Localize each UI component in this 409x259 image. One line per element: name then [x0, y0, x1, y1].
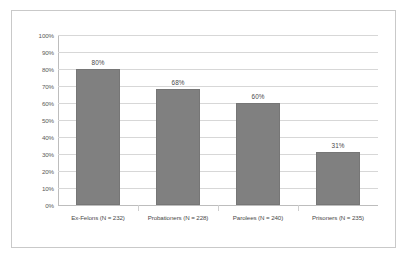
bar-value-label: 80%	[92, 59, 105, 66]
y-tick-label: 90%	[20, 49, 54, 56]
y-tick-label: 80%	[20, 66, 54, 73]
bar-value-label: 31%	[332, 142, 345, 149]
bar-slot: 31%	[298, 35, 378, 205]
category-label: Probationers (N = 228)	[138, 214, 218, 221]
y-tick-label: 70%	[20, 83, 54, 90]
plot-area: 80%68%60%31%	[58, 35, 378, 205]
y-tick-label: 60%	[20, 100, 54, 107]
bar-slot: 80%	[58, 35, 138, 205]
category-divider	[138, 205, 139, 211]
y-tick-label: 100%	[20, 32, 54, 39]
bar-slot: 68%	[138, 35, 218, 205]
category-label: Prisoners (N = 235)	[298, 214, 378, 221]
y-tick-label: 40%	[20, 134, 54, 141]
y-tick-label: 50%	[20, 117, 54, 124]
y-tick-label: 10%	[20, 185, 54, 192]
bar[interactable]	[156, 89, 200, 205]
category-label: Ex-Felons (N = 232)	[58, 214, 138, 221]
y-tick-label: 30%	[20, 151, 54, 158]
category-divider	[298, 205, 299, 211]
bar-value-label: 60%	[252, 93, 265, 100]
bar-value-label: 68%	[172, 79, 185, 86]
bar[interactable]	[236, 103, 280, 205]
bar-slot: 60%	[218, 35, 298, 205]
bar[interactable]	[76, 69, 120, 205]
bar[interactable]	[316, 152, 360, 205]
y-axis-tick-labels: 100%90%80%70%60%50%40%30%20%10%0%	[16, 35, 54, 205]
category-label: Parolees (N = 240)	[218, 214, 298, 221]
category-divider	[218, 205, 219, 211]
chart-frame: 100%90%80%70%60%50%40%30%20%10%0% 80%68%…	[11, 10, 396, 248]
x-axis-category-labels: Ex-Felons (N = 232)Probationers (N = 228…	[58, 211, 378, 231]
y-tick-label: 0%	[20, 202, 54, 209]
y-tick-label: 20%	[20, 168, 54, 175]
